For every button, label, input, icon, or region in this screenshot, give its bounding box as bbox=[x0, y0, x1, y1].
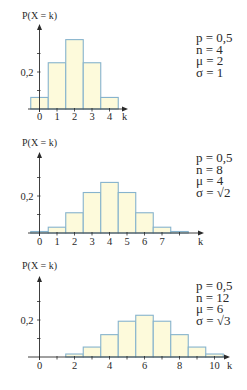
histogram-bar bbox=[153, 321, 171, 357]
x-tick-label: 4 bbox=[107, 111, 113, 122]
x-axis-label: k bbox=[122, 111, 128, 122]
y-axis-label: P(X = k) bbox=[22, 10, 57, 22]
x-tick-label: 1 bbox=[54, 236, 59, 247]
params-chart-1: p = 0,5 n = 4 μ = 2 σ = 1 bbox=[196, 32, 233, 78]
histogram-bar bbox=[188, 347, 206, 357]
histogram-bar bbox=[136, 315, 154, 357]
x-tick-label: 4 bbox=[107, 360, 113, 371]
x-tick-label: 10 bbox=[209, 360, 220, 371]
x-tick-label: 6 bbox=[142, 236, 147, 247]
x-tick-label: 6 bbox=[142, 360, 147, 371]
y-tick-label: 0,2 bbox=[20, 191, 33, 202]
x-tick-label: 1 bbox=[54, 111, 59, 122]
histogram-bar bbox=[48, 63, 66, 109]
y-tick-label: 0,2 bbox=[20, 315, 33, 326]
x-tick-label: 0 bbox=[37, 236, 42, 247]
params-chart-2: p = 0,5 n = 8 μ = 4 σ = √2 bbox=[196, 152, 233, 198]
x-axis-arrow-icon bbox=[224, 355, 230, 360]
y-axis-arrow-icon bbox=[37, 152, 42, 158]
x-axis-label: k bbox=[227, 360, 233, 371]
histogram-bar bbox=[83, 193, 101, 233]
x-tick-label: 2 bbox=[72, 236, 77, 247]
histogram-bar bbox=[101, 335, 119, 357]
x-tick-label: 3 bbox=[89, 111, 94, 122]
x-tick-label: 0 bbox=[37, 360, 42, 371]
histogram-bar bbox=[101, 182, 119, 233]
x-tick-label: 4 bbox=[107, 236, 113, 247]
histogram-bar bbox=[83, 63, 101, 109]
x-tick-label: 2 bbox=[72, 111, 77, 122]
y-axis-label: P(X = k) bbox=[22, 137, 57, 149]
y-axis-arrow-icon bbox=[37, 24, 42, 30]
histogram-bar bbox=[83, 347, 101, 357]
histogram-bar bbox=[118, 193, 136, 233]
x-axis-label: k bbox=[198, 236, 204, 247]
x-tick-label: 2 bbox=[72, 360, 77, 371]
params-chart-3: p = 0,5 n = 12 μ = 6 σ = √3 bbox=[196, 280, 233, 326]
y-tick-label: 0,2 bbox=[20, 67, 33, 78]
param-sigma: σ = √3 bbox=[196, 315, 233, 327]
x-tick-label: 5 bbox=[124, 236, 129, 247]
histogram-bar bbox=[101, 97, 119, 109]
x-tick-label: 7 bbox=[159, 236, 164, 247]
x-tick-label: 0 bbox=[37, 111, 42, 122]
y-axis-arrow-icon bbox=[37, 276, 42, 282]
histogram-bar bbox=[66, 40, 84, 109]
param-sigma: σ = 1 bbox=[196, 67, 233, 79]
x-tick-label: 8 bbox=[177, 360, 182, 371]
histogram-bar bbox=[118, 321, 136, 357]
histogram-bar bbox=[66, 213, 84, 233]
histogram-bar bbox=[136, 213, 154, 233]
x-axis-arrow-icon bbox=[198, 231, 204, 236]
y-axis-label: P(X = k) bbox=[22, 260, 57, 272]
histogram-bar bbox=[171, 335, 189, 357]
param-sigma: σ = √2 bbox=[196, 187, 233, 199]
x-tick-label: 3 bbox=[89, 236, 94, 247]
